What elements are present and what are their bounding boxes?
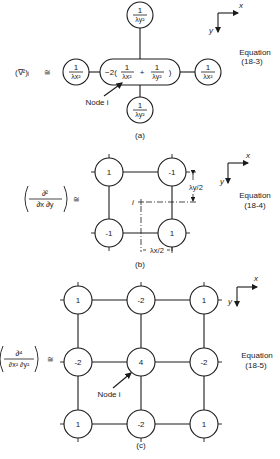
svg-text:λx/2: λx/2 [150, 246, 164, 255]
svg-text:x: x [238, 1, 244, 10]
svg-text:(18-5): (18-5) [245, 361, 267, 370]
caption-b: (b) [135, 260, 145, 269]
stencil-b-node: -1 [105, 229, 113, 238]
svg-text:∂x ∂y: ∂x ∂y [37, 200, 54, 209]
svg-text:i: i [132, 198, 134, 207]
svg-text:λy²: λy² [152, 73, 162, 81]
svg-text:1: 1 [138, 101, 143, 110]
panel-b-text: 1 -1 -1 1 i λy/2 λx/2 ∂² ∂x ∂y ≅ (b) x y… [37, 151, 271, 269]
svg-text:y: y [208, 26, 214, 35]
stencil-c-node: -2 [137, 420, 145, 429]
finite-difference-stencils: 1 λy² 1 λy² 1 λx² 1 λx² −2( 1 λx² + 1 λy… [0, 0, 280, 459]
caption-a: (a) [135, 131, 145, 140]
stencil-b-node: 1 [107, 168, 112, 177]
svg-text:y: y [227, 297, 233, 306]
node-i-label: Node i [97, 390, 120, 399]
svg-text:1: 1 [74, 63, 79, 72]
svg-text:1: 1 [155, 63, 160, 72]
svg-text:+: + [140, 68, 145, 77]
stencil-c-node: -2 [137, 296, 145, 305]
svg-text:Equation: Equation [239, 48, 271, 57]
svg-text:λy²: λy² [135, 111, 145, 119]
svg-text:(18-4): (18-4) [244, 201, 266, 210]
svg-text:∂x² ∂y²: ∂x² ∂y² [9, 361, 30, 369]
stencil-b-node: 1 [170, 229, 175, 238]
stencil-c-node: 1 [202, 296, 207, 305]
svg-text:λy/2: λy/2 [189, 183, 203, 192]
stencil-c-node-center: 4 [139, 358, 144, 367]
svg-text:λy²: λy² [135, 16, 145, 24]
svg-text:∂²: ∂² [42, 189, 49, 198]
svg-text:≅: ≅ [47, 355, 54, 364]
lhs-laplacian: (∇²)ᵢ [15, 68, 29, 77]
node-i-label: Node i [85, 98, 108, 107]
svg-text:(18-3): (18-3) [241, 57, 263, 66]
panel-c-text: 1 -2 1 -2 4 -2 1 -2 1 Node i ∂⁴ ∂x² ∂y² … [9, 274, 273, 450]
svg-text:λx²: λx² [71, 73, 81, 80]
svg-text:x: x [245, 151, 251, 160]
stencil-c-node: 1 [202, 420, 207, 429]
caption-c: (c) [136, 441, 146, 450]
svg-text:λx²: λx² [122, 73, 132, 80]
svg-text:−2(: −2( [105, 68, 117, 77]
svg-text:1: 1 [125, 63, 130, 72]
svg-text:λx²: λx² [203, 73, 213, 80]
svg-text:y: y [219, 177, 225, 186]
stencil-c-node: -2 [74, 358, 82, 367]
svg-text:x: x [253, 274, 259, 283]
svg-text:1: 1 [206, 63, 211, 72]
stencil-c-node: 1 [76, 296, 81, 305]
svg-text:∂⁴: ∂⁴ [16, 349, 23, 358]
svg-text:Equation: Equation [239, 191, 271, 200]
svg-text:): ) [169, 68, 172, 77]
panel-c [0, 282, 257, 442]
stencil-c-node: -2 [200, 358, 208, 367]
stencil-c-node: 1 [76, 420, 81, 429]
svg-text:1: 1 [138, 6, 143, 15]
svg-text:Equation: Equation [241, 351, 273, 360]
svg-text:≅: ≅ [44, 68, 51, 77]
svg-text:≅: ≅ [73, 195, 80, 204]
stencil-b-node: -1 [168, 168, 176, 177]
panel-b [25, 154, 248, 253]
